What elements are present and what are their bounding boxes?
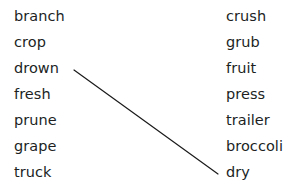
left-word-item[interactable]: drown — [14, 55, 59, 81]
matching-exercise-page: branch crop drown fresh prune grape truc… — [0, 0, 296, 191]
left-word-item[interactable]: branch — [14, 3, 65, 29]
right-word-item[interactable]: broccoli — [226, 133, 283, 159]
left-word-column: branch crop drown fresh prune grape truc… — [14, 0, 154, 191]
right-word-item[interactable]: press — [226, 81, 265, 107]
right-word-column: crush grub fruit press trailer broccoli … — [226, 0, 296, 191]
right-word-item[interactable]: grub — [226, 29, 260, 55]
left-word-item[interactable]: truck — [14, 159, 51, 185]
left-word-item[interactable]: crop — [14, 29, 46, 55]
right-word-item[interactable]: fruit — [226, 55, 256, 81]
left-word-item[interactable]: grape — [14, 133, 56, 159]
right-word-item[interactable]: dry — [226, 159, 250, 185]
right-word-item[interactable]: crush — [226, 3, 266, 29]
right-word-item[interactable]: trailer — [226, 107, 270, 133]
left-word-item[interactable]: prune — [14, 107, 57, 133]
left-word-item[interactable]: fresh — [14, 81, 51, 107]
